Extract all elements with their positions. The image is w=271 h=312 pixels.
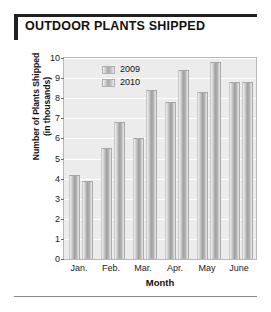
- x-tick-label: Apr.: [159, 263, 191, 273]
- legend-item-2009: 2009: [102, 63, 140, 76]
- y-axis-title: Number of Plants Shipped (in thousands): [31, 19, 52, 194]
- y-axis-title-line2: (in thousands): [42, 77, 52, 136]
- bar-2010-Apr: [178, 70, 189, 259]
- y-tick-label: 8: [55, 93, 60, 103]
- x-axis-title: Month: [63, 277, 257, 288]
- bar-2009-Jan: [69, 175, 80, 259]
- bar-2010-June: [242, 82, 253, 259]
- bar-2010-Jan: [82, 181, 93, 259]
- title-frame-left-bar: [14, 14, 18, 40]
- bar-group: [69, 58, 94, 259]
- y-tick-label: 6: [55, 133, 60, 143]
- bar-group: [165, 58, 190, 259]
- y-tick-label: 2: [55, 214, 60, 224]
- bar-2010-Mar: [146, 90, 157, 259]
- bar-2009-Feb: [101, 148, 112, 259]
- y-tick-mark: [61, 259, 64, 260]
- bar-2009-Mar: [133, 138, 144, 259]
- legend-swatch-2010: [102, 79, 115, 87]
- bottom-rule: [14, 296, 257, 297]
- y-axis-title-line1: Number of Plants Shipped: [31, 53, 41, 160]
- x-tick-label: Mar.: [127, 263, 159, 273]
- bar-2010-Feb: [114, 122, 125, 259]
- y-tick-label: 3: [55, 194, 60, 204]
- y-tick-label: 1: [55, 234, 60, 244]
- y-tick-label: 0: [55, 254, 60, 264]
- legend-label-2010: 2010: [120, 78, 140, 87]
- y-tick-label: 9: [55, 73, 60, 83]
- y-tick-label: 7: [55, 113, 60, 123]
- y-tick-label: 4: [55, 174, 60, 184]
- legend-item-2010: 2010: [102, 76, 140, 89]
- bar-group: [229, 58, 254, 259]
- bar-2009-May: [197, 92, 208, 259]
- bar-2009-June: [229, 82, 240, 259]
- bar-series-container: [64, 58, 256, 259]
- legend: 2009 2010: [102, 63, 140, 89]
- y-tick-label: 10: [50, 53, 60, 63]
- bar-2010-May: [210, 62, 221, 259]
- y-tick-label: 5: [55, 154, 60, 164]
- legend-label-2009: 2009: [120, 65, 140, 74]
- x-tick-label: June: [223, 263, 255, 273]
- chart-title: OUTDOOR PLANTS SHIPPED: [25, 19, 205, 33]
- x-tick-label: Feb.: [95, 263, 127, 273]
- bar-group: [197, 58, 222, 259]
- x-tick-label: Jan.: [63, 263, 95, 273]
- bar-2009-Apr: [165, 102, 176, 259]
- plot-area: 109876543210 2009 2010: [63, 57, 257, 260]
- x-tick-label: May: [191, 263, 223, 273]
- legend-swatch-2009: [102, 66, 115, 74]
- title-frame-top-bar: [14, 14, 257, 17]
